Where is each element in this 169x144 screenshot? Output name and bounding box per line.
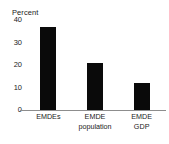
y-axis-tick-label: 10: [14, 84, 22, 92]
y-axis-tick-label: 30: [14, 39, 22, 47]
x-axis-category-label: EMDEs: [25, 112, 72, 122]
x-axis-category-label-line: GDP: [118, 122, 165, 132]
x-axis-category-label-line: population: [72, 122, 119, 132]
y-axis-tick-labels: 010203040: [8, 20, 22, 110]
x-axis-category-label-line: EMDE: [131, 112, 152, 121]
plot-area: [25, 20, 165, 110]
bar: [40, 27, 56, 110]
y-axis-tick-label: 20: [14, 61, 22, 69]
y-axis-tick-label: 40: [14, 16, 22, 24]
x-axis-category-label-line: EMDEs: [36, 112, 60, 121]
bar: [87, 63, 103, 110]
x-axis-category-labels: EMDEsEMDEpopulationEMDEGDP: [25, 112, 165, 142]
bar-chart: Percent 010203040 EMDEsEMDEpopulationEMD…: [0, 0, 169, 144]
bar: [134, 83, 150, 110]
x-axis-category-label: EMDEpopulation: [72, 112, 119, 131]
x-axis-category-label-line: EMDE: [85, 112, 106, 121]
x-axis-category-label: EMDEGDP: [118, 112, 165, 131]
